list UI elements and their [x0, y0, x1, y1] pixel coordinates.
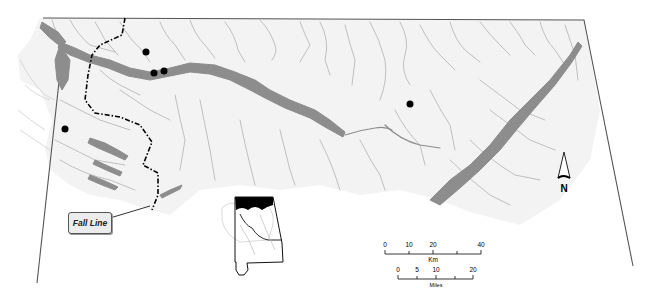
km-tick-40: 40	[477, 241, 485, 248]
fall-line-callout-leader	[110, 206, 150, 218]
miles-tick-0: 0	[396, 266, 400, 273]
site-marker[interactable]	[161, 68, 168, 75]
site-marker[interactable]	[62, 126, 69, 133]
site-marker[interactable]	[407, 101, 414, 108]
miles-tick-5: 5	[415, 266, 419, 273]
miles-unit-label: Miles	[430, 282, 443, 288]
scale-bar-miles	[398, 275, 473, 279]
km-unit-label: Km	[428, 256, 438, 263]
site-marker[interactable]	[143, 49, 150, 56]
scale-bar-km	[385, 250, 481, 254]
fall-line-callout: Fall Line	[68, 212, 112, 234]
fall-line-label: Fall Line	[73, 218, 107, 228]
km-tick-10: 10	[405, 241, 413, 248]
miles-tick-20: 20	[469, 266, 477, 273]
miles-tick-10: 10	[432, 266, 440, 273]
km-tick-20: 20	[429, 241, 437, 248]
site-marker[interactable]	[151, 70, 158, 77]
km-tick-0: 0	[383, 241, 387, 248]
alabama-inset-map	[222, 197, 283, 275]
north-arrow-label: N	[560, 183, 567, 194]
map-canvas: N 0 10 20 40 Km 0 5 10 20 Miles	[0, 0, 653, 297]
